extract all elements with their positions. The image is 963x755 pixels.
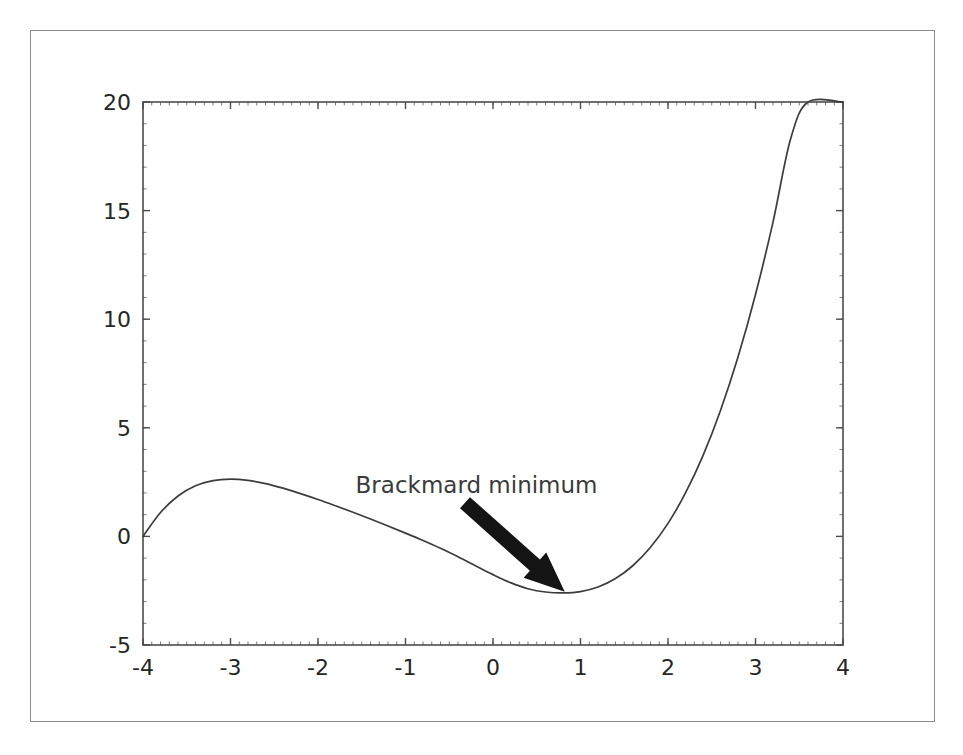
x-tick-label: 3 bbox=[749, 655, 763, 680]
y-tick-label: 5 bbox=[117, 416, 131, 441]
annotation-arrow-icon bbox=[460, 497, 565, 592]
y-tick-label: 10 bbox=[103, 307, 131, 332]
x-tick-label: -1 bbox=[395, 655, 417, 680]
x-tick-label: 0 bbox=[486, 655, 500, 680]
minor-tick-marks bbox=[143, 102, 843, 645]
y-axis-tick-labels: -505101520 bbox=[103, 90, 131, 658]
x-tick-label: 4 bbox=[836, 655, 850, 680]
annotation-label-brackmard-minimum: Brackmard minimum bbox=[356, 472, 598, 498]
x-tick-label: 1 bbox=[574, 655, 588, 680]
x-tick-label: -4 bbox=[132, 655, 154, 680]
x-tick-label: -3 bbox=[220, 655, 242, 680]
x-axis-tick-labels: -4-3-2-101234 bbox=[132, 655, 850, 680]
x-tick-label: -2 bbox=[307, 655, 329, 680]
y-tick-label: 20 bbox=[103, 90, 131, 115]
plot-canvas: -4-3-2-101234 -505101520 Brackmard minim… bbox=[0, 0, 963, 755]
axes-frame bbox=[143, 102, 843, 645]
y-tick-label: 0 bbox=[117, 524, 131, 549]
major-tick-marks bbox=[143, 102, 843, 645]
figure-root: -4-3-2-101234 -505101520 Brackmard minim… bbox=[0, 0, 963, 755]
y-tick-label: 15 bbox=[103, 199, 131, 224]
x-tick-label: 2 bbox=[661, 655, 675, 680]
y-tick-label: -5 bbox=[109, 633, 131, 658]
